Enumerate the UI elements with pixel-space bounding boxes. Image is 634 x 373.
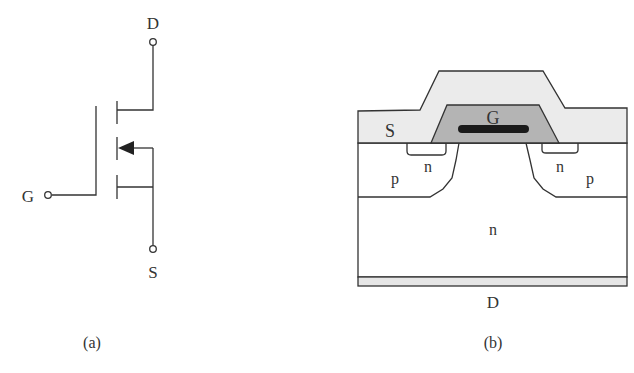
label-source-a: S <box>148 263 157 282</box>
label-n-drift: n <box>489 221 497 238</box>
label-n-left: n <box>424 158 432 175</box>
label-source-b: S <box>385 121 395 141</box>
drain-plate <box>358 277 627 286</box>
drain-wire <box>117 46 153 111</box>
source-terminal-icon <box>150 246 157 253</box>
label-gate-a: G <box>22 187 34 206</box>
label-drain-a: D <box>147 14 159 33</box>
caption-b: (b) <box>484 334 503 352</box>
label-p-left: p <box>391 170 399 188</box>
gate-terminal-icon <box>45 192 52 199</box>
label-n-right: n <box>556 158 564 175</box>
caption-a: (a) <box>83 334 101 352</box>
gate-wire <box>52 106 96 195</box>
label-gate-b: G <box>487 108 500 128</box>
mosfet-symbol <box>45 39 157 253</box>
label-p-right: p <box>586 170 594 188</box>
label-drain-b: D <box>487 293 499 312</box>
drain-terminal-icon <box>150 39 157 46</box>
n-drift-region <box>358 143 627 277</box>
arrow-icon <box>118 141 134 155</box>
